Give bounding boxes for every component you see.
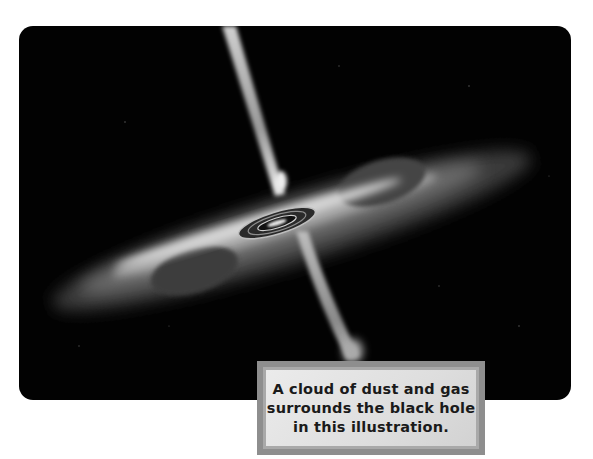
caption-text: A cloud of dust and gas surrounds the bl…	[267, 380, 475, 437]
caption-box: A cloud of dust and gas surrounds the bl…	[257, 361, 485, 455]
black-hole-illustration	[19, 26, 571, 400]
caption-line-2: surrounds the black hole	[267, 399, 475, 418]
illustration-graphic	[19, 26, 571, 400]
caption-border: A cloud of dust and gas surrounds the bl…	[263, 367, 479, 449]
caption-line-3: in this illustration.	[267, 418, 475, 437]
caption-line-1: A cloud of dust and gas	[267, 380, 475, 399]
caption-panel: A cloud of dust and gas surrounds the bl…	[266, 370, 476, 446]
